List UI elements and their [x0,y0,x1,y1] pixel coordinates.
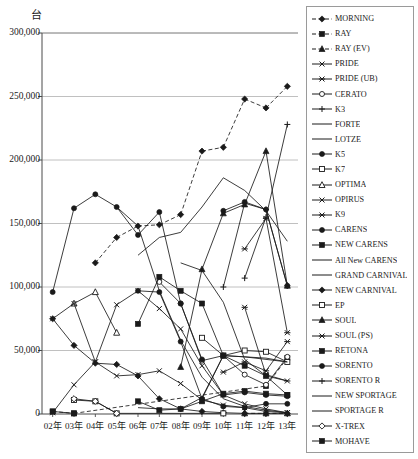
legend-swatch-icon [311,179,333,191]
legend-item-retona[interactable]: RETONA [311,343,413,358]
x-tick-label: 13年 [272,419,302,432]
legend-label: EP [335,301,345,310]
legend-label: FORTE [335,120,360,129]
legend-label: RAY [335,29,352,38]
legend-swatch-icon [311,209,333,221]
legend-label: All New CARENS [335,256,397,265]
series-lotze [117,207,288,413]
chart-legend: MORNINGRAYRAY (EV)PRIDEPRIDE (UB)CERATOK… [306,6,414,453]
legend-swatch-icon [311,73,333,85]
legend-item-sportage-r[interactable]: SPORTAGE R [311,403,413,418]
legend-label: MOHAVE [335,437,370,446]
legend-swatch-icon [311,299,333,311]
legend-item-grand-carnival[interactable]: GRAND CARNIVAL [311,268,413,283]
legend-item-k9[interactable]: K9 [311,207,413,222]
legend-swatch-icon [311,284,333,296]
legend-item-lotze[interactable]: LOTZE [311,132,413,147]
legend-item-morning[interactable]: MORNING [311,11,413,26]
legend-item-ray[interactable]: RAY [311,26,413,41]
series-pride [50,359,290,415]
series-ray [50,356,290,416]
legend-item-sorento-r[interactable]: SORENTO R [311,373,413,388]
legend-item-opirus[interactable]: OPIRUS [311,192,413,207]
legend-label: CARENS [335,225,367,234]
legend-swatch-icon [311,330,333,342]
legend-swatch-icon [311,420,333,432]
legend-item-k7[interactable]: K7 [311,162,413,177]
legend-swatch-icon [311,58,333,70]
legend-label: SORENTO R [335,376,380,385]
series-pride-ub- [220,339,290,374]
legend-swatch-icon [311,314,333,326]
legend-item-forte[interactable]: FORTE [311,117,413,132]
legend-item-carens[interactable]: CARENS [311,222,413,237]
legend-label: K5 [335,150,345,159]
legend-swatch-icon [311,194,333,206]
legend-swatch-icon [311,224,333,236]
legend-item-k5[interactable]: K5 [311,147,413,162]
legend-label: SOUL (PS) [335,331,373,340]
series-x-trex [71,396,120,417]
legend-swatch-icon [311,239,333,251]
legend-swatch-icon [311,118,333,130]
legend-label: LOTZE [335,135,361,144]
legend-label: K7 [335,165,345,174]
legend-label: SOUL [335,316,356,325]
legend-swatch-icon [311,43,333,55]
legend-swatch-icon [311,405,333,417]
legend-item-ray-ev-[interactable]: RAY (EV) [311,41,413,56]
legend-item-soul-ps-[interactable]: SOUL (PS) [311,328,413,343]
legend-label: OPTIMA [335,180,366,189]
legend-label: PRIDE (UB) [335,74,378,83]
legend-item-sorento[interactable]: SORENTO [311,358,413,373]
legend-item-all-new-carens[interactable]: All New CARENS [311,253,413,268]
series-optima [71,289,120,335]
series-morning [92,83,290,266]
legend-item-new-sportage[interactable]: NEW SPORTAGE [311,388,413,403]
series-opirus [50,288,290,415]
legend-swatch-icon [311,88,333,100]
y-tick-label: 100,000 [0,281,40,291]
series-carens [50,192,290,399]
y-tick-label: 0 [0,408,40,418]
legend-label: NEW CARENS [335,240,388,249]
chart-container: 台 050,000100,000150,000200,000250,000300… [0,0,418,459]
legend-label: NEW SPORTAGE [335,391,397,400]
legend-swatch-icon [311,345,333,357]
legend-item-pride[interactable]: PRIDE [311,56,413,71]
legend-swatch-icon [311,360,333,372]
series-sorento-r [220,200,290,290]
legend-item-new-carens[interactable]: NEW CARENS [311,237,413,252]
legend-label: SORENTO [335,361,373,370]
series-soul-ps- [242,216,291,335]
legend-label: K3 [335,105,345,114]
legend-swatch-icon [311,133,333,145]
legend-label: X-TREX [335,422,365,431]
legend-label: PRIDE [335,59,359,68]
y-tick-label: 250,000 [0,91,40,101]
legend-swatch-icon [311,390,333,402]
y-tick-label: 200,000 [0,154,40,164]
legend-swatch-icon [311,103,333,115]
y-tick-label: 300,000 [0,27,40,37]
legend-label: OPIRUS [335,195,364,204]
legend-label: CERATO [335,90,367,99]
legend-item-new-carnival[interactable]: NEW CARNIVAL [311,283,413,298]
legend-item-k3[interactable]: K3 [311,102,413,117]
legend-label: RETONA [335,346,368,355]
legend-label: RAY (EV) [335,44,370,53]
legend-label: SPORTAGE R [335,406,384,415]
legend-item-x-trex[interactable]: X-TREX [311,419,413,434]
legend-swatch-icon [311,269,333,281]
legend-swatch-icon [311,13,333,25]
legend-swatch-icon [311,435,333,447]
legend-item-soul[interactable]: SOUL [311,313,413,328]
legend-label: NEW CARNIVAL [335,286,397,295]
legend-item-ep[interactable]: EP [311,298,413,313]
legend-swatch-icon [311,254,333,266]
legend-item-mohave[interactable]: MOHAVE [311,434,413,449]
legend-item-optima[interactable]: OPTIMA [311,177,413,192]
legend-item-pride-ub-[interactable]: PRIDE (UB) [311,71,413,86]
legend-item-cerato[interactable]: CERATO [311,86,413,101]
legend-label: GRAND CARNIVAL [335,271,407,280]
